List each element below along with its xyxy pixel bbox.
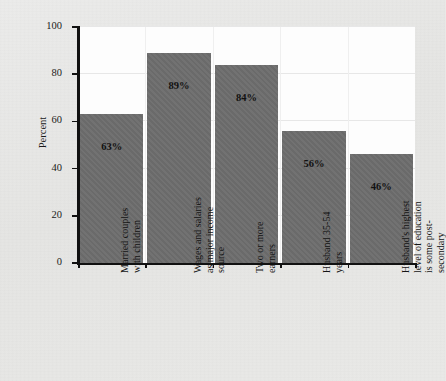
y-tick <box>72 215 78 217</box>
gridline <box>78 26 415 27</box>
category-separator <box>145 27 146 263</box>
category-label-3: Two or more earners <box>254 161 277 273</box>
category-label-1: Married couples with children <box>119 161 142 273</box>
x-tick <box>145 263 147 268</box>
y-axis-line <box>77 26 80 264</box>
y-tick <box>72 168 78 170</box>
x-tick <box>348 263 350 268</box>
bar-value-label-1: 63% <box>80 141 143 152</box>
category-label-2: Wages and salaries as major income sourc… <box>192 161 227 273</box>
y-tick-label: 40 <box>16 162 62 173</box>
bar-value-label-3: 84% <box>215 92 278 103</box>
y-tick-label: 80 <box>16 67 62 78</box>
y-tick-label: 0 <box>16 256 62 267</box>
y-tick-label: 60 <box>16 114 62 125</box>
y-tick <box>72 73 78 75</box>
category-separator <box>348 27 349 263</box>
x-tick <box>78 263 80 268</box>
y-tick-label: 100 <box>16 20 62 31</box>
y-tick <box>72 121 78 123</box>
category-label-5: Husband's highest level of education is … <box>400 161 446 273</box>
bar-chart-figure: 63%89%84%56%46% Percent 020406080100 Mar… <box>0 7 445 381</box>
category-label-4: Husband 35-54 years <box>321 161 344 273</box>
bar-value-label-2: 89% <box>147 80 210 91</box>
y-tick <box>72 26 78 28</box>
cut-off-title <box>0 0 445 7</box>
y-tick-label: 20 <box>16 209 62 220</box>
x-tick <box>280 263 282 268</box>
category-separator <box>280 27 281 263</box>
